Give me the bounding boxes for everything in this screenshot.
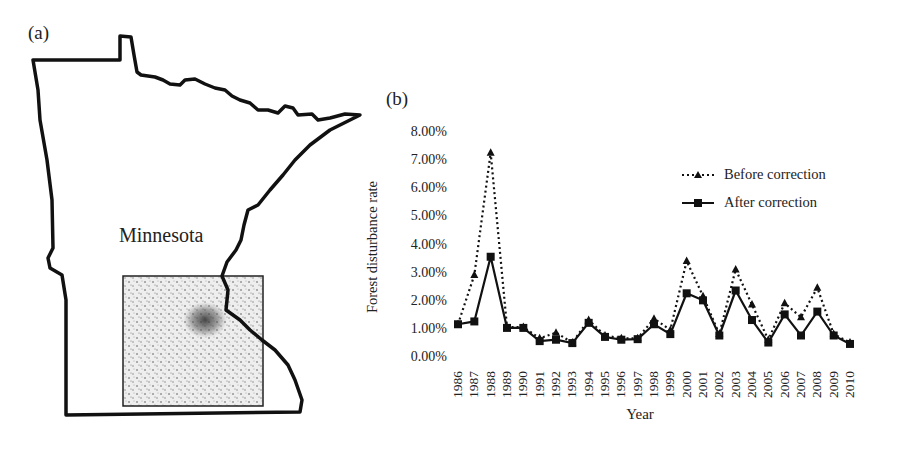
square-marker: [732, 287, 740, 295]
triangle-marker: [813, 283, 821, 291]
square-marker: [813, 308, 821, 316]
solid-square-legend-icon: [680, 198, 716, 208]
square-marker: [797, 332, 805, 340]
triangle-marker: [797, 313, 805, 321]
square-marker: [617, 336, 625, 344]
square-marker: [601, 333, 609, 341]
square-marker: [715, 332, 723, 340]
legend-label: After correction: [724, 194, 817, 211]
square-marker: [552, 336, 560, 344]
square-marker: [503, 324, 511, 332]
square-marker: [781, 310, 789, 318]
square-marker: [846, 340, 854, 348]
after-correction-line: [458, 257, 850, 344]
square-marker: [650, 320, 658, 328]
triangle-marker: [683, 256, 691, 264]
square-marker: [748, 316, 756, 324]
triangle-marker: [470, 271, 478, 279]
square-marker: [568, 339, 576, 347]
triangle-marker: [732, 265, 740, 273]
triangle-marker: [781, 299, 789, 307]
square-marker: [487, 253, 495, 261]
dotted-triangle-legend-icon: [680, 170, 716, 180]
legend-before-correction: Before correction: [680, 166, 826, 183]
disturbance-line-chart: [0, 0, 905, 451]
triangle-marker: [487, 148, 495, 156]
square-marker: [470, 317, 478, 325]
square-marker: [764, 339, 772, 347]
square-marker: [519, 324, 527, 332]
legend-label: Before correction: [724, 166, 826, 183]
square-marker: [454, 320, 462, 328]
triangle-marker: [748, 300, 756, 308]
legend-after-correction: After correction: [680, 194, 817, 211]
triangle-marker: [552, 328, 560, 336]
square-marker: [666, 330, 674, 338]
square-marker: [683, 289, 691, 297]
square-marker: [536, 337, 544, 345]
square-marker: [699, 296, 707, 304]
square-marker: [585, 319, 593, 327]
square-marker: [634, 335, 642, 343]
square-marker: [830, 332, 838, 340]
